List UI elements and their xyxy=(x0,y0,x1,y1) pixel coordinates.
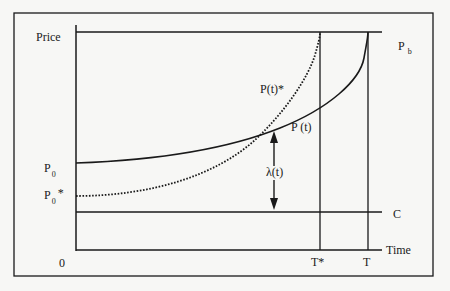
initial-price-label: P0 xyxy=(44,161,56,179)
t-star-label: T* xyxy=(311,255,324,269)
y-axis-label: Price xyxy=(36,30,61,44)
scarcity-rent-label: λ(t) xyxy=(266,165,283,179)
outer-frame xyxy=(14,13,433,276)
price-path-diagram: Price Time 0 Pb P0 P0* C P (t) P(t)* λ(t… xyxy=(0,0,450,291)
t-end-label: T xyxy=(363,255,371,269)
price-path-curve xyxy=(76,32,368,163)
price-path-label: P (t) xyxy=(291,120,312,134)
arrow-down-icon xyxy=(270,198,278,210)
price-path-star-curve xyxy=(76,32,320,196)
cost-label: C xyxy=(393,207,401,221)
price-path-star-label: P(t)* xyxy=(260,82,284,96)
arrow-up-icon xyxy=(270,131,278,143)
x-axis-label: Time xyxy=(386,243,411,257)
backstop-price-label: Pb xyxy=(398,39,412,56)
initial-price-star-label: P0* xyxy=(44,186,64,206)
origin-label: 0 xyxy=(59,256,65,270)
